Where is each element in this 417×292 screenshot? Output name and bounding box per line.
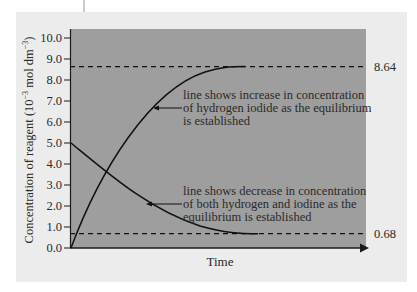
equilibrium-value-h2-i2: 0.68 xyxy=(374,227,396,241)
y-tick-label: 8.0 xyxy=(46,73,62,87)
y-tick-label: 6.0 xyxy=(46,115,62,129)
y-tick-label: 7.0 xyxy=(46,94,62,108)
equilibrium-value-hi: 8.64 xyxy=(374,60,397,74)
y-axis-label: Concentration of reagent (10−3 mol dm−3) xyxy=(21,37,36,244)
y-tick-label: 9.0 xyxy=(46,52,62,66)
y-tick-label: 4.0 xyxy=(46,157,62,171)
x-axis-label: Time xyxy=(207,254,234,269)
y-tick-label: 3.0 xyxy=(46,178,62,192)
y-tick-label: 1.0 xyxy=(46,220,62,234)
y-tick-label: 10.0 xyxy=(40,31,62,45)
y-tick-label: 0.0 xyxy=(46,241,62,255)
equilibrium-concentration-chart: 0.01.02.03.04.05.06.07.08.09.010.0 Conce… xyxy=(0,0,417,292)
y-tick-label: 5.0 xyxy=(46,136,62,150)
y-tick-label: 2.0 xyxy=(46,199,62,213)
